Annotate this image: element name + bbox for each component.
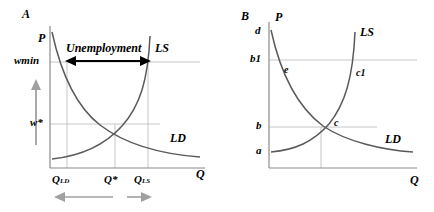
unemployment-arrow	[65, 56, 151, 66]
panel-a-y-axis-label: P	[38, 32, 45, 44]
gray-up-arrow	[31, 79, 41, 145]
panel-a: A P Q wmin w* QLD Q* QLS LS LD Unemploym…	[0, 0, 217, 212]
x-tick-qls: QLS	[134, 174, 150, 185]
point-label-e: e	[284, 65, 288, 75]
panel-a-x-axis-label: Q	[196, 168, 205, 180]
curve-label-ld-a: LD	[170, 132, 186, 144]
x-tick-qld: QLD	[52, 174, 69, 185]
curve-label-ls-a: LS	[155, 42, 169, 54]
panel-b-graphics	[217, 0, 434, 212]
point-label-c: c	[334, 118, 338, 128]
x-tick-qld-base: Q	[52, 173, 60, 185]
panel-b-x-axis-label: Q	[410, 174, 419, 186]
y-tick-a: a	[256, 145, 262, 156]
panel-b-label: B	[241, 10, 249, 22]
curve-label-ls-b: LS	[360, 26, 374, 38]
y-tick-b1: b1	[250, 53, 261, 64]
curve-label-ld-b: LD	[385, 133, 401, 145]
y-tick-d: d	[255, 25, 261, 36]
x-tick-qld-sub: LD	[60, 177, 69, 185]
figure-root: A P Q wmin w* QLD Q* QLS LS LD Unemploym…	[0, 0, 434, 212]
unemployment-label: Unemployment	[66, 42, 141, 54]
panel-b: B P Q d b1 b a LS LD e c1 c	[217, 0, 434, 212]
gray-left-arrow	[54, 192, 113, 202]
gray-right-arrow	[127, 192, 152, 202]
panel-a-label: A	[22, 8, 30, 20]
point-label-c1: c1	[356, 68, 365, 78]
y-tick-b: b	[256, 120, 262, 131]
panel-b-y-axis-label: P	[275, 11, 282, 23]
x-tick-qstar: Q*	[104, 174, 117, 185]
y-tick-wmin: wmin	[14, 55, 39, 66]
curve-ls-b	[271, 32, 355, 152]
x-tick-qls-base: Q	[134, 173, 142, 185]
y-tick-wstar: w*	[30, 117, 43, 128]
x-tick-qls-sub: LS	[142, 177, 150, 185]
